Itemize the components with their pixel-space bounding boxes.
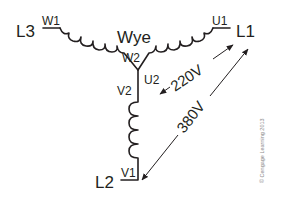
terminal-v2-label: V2 (117, 84, 132, 98)
terminal-v1-label: V1 (121, 166, 136, 180)
terminal-w2-label: W2 (122, 51, 140, 65)
terminal-u1-label: U1 (212, 14, 228, 28)
terminal-w1-label: W1 (42, 14, 60, 28)
terminal-u2-label: U2 (144, 73, 160, 87)
winding-u (138, 28, 230, 70)
line-l3-label: L3 (16, 22, 35, 41)
diagram-title: Wye (117, 28, 151, 47)
line-l1-label: L1 (236, 22, 255, 41)
line-l2-label: L2 (95, 173, 114, 192)
phase-voltage-arrow: 220V (160, 45, 233, 94)
wye-connection-diagram: Wye W1 W2 U1 U2 V2 V1 L3 L1 L2 220V 380V… (0, 0, 282, 198)
line-voltage-label: 380V (173, 98, 208, 136)
copyright-text: © Cengage Learning 2013 (259, 118, 265, 183)
phase-voltage-label: 220V (167, 61, 206, 95)
